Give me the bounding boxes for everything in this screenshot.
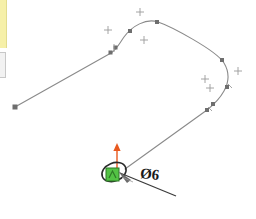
construction-crosshair-markers [104,8,242,92]
sketch-profile-path[interactable] [15,21,228,169]
sketch-node[interactable] [155,20,159,24]
coincident-snap-marker [106,168,119,181]
sketch-endpoint-left[interactable] [13,105,18,110]
cad-sketch-window: Ø6 [0,0,256,219]
sketch-node[interactable] [220,58,224,62]
sketch-node[interactable] [128,29,132,33]
inactive-panel-edge[interactable] [0,52,6,78]
highlighted-panel-edge[interactable] [0,0,7,48]
sketch-node[interactable] [211,102,215,106]
sketch-node[interactable] [205,108,209,112]
sketch-node-points[interactable] [13,20,230,112]
sketch-canvas[interactable]: Ø6 [0,0,256,219]
crosshair-icon [234,67,242,75]
crosshair-icon [140,36,148,44]
sketch-node[interactable] [225,85,229,89]
crosshair-icon [136,8,144,16]
crosshair-icon [104,26,112,34]
node-tick-marks [114,44,232,111]
sketch-node[interactable] [109,51,113,55]
diameter-dimension-label[interactable]: Ø6 [139,166,160,183]
crosshair-icon [206,84,214,92]
sketch-svg-layer [0,0,256,219]
crosshair-icon [201,75,209,83]
